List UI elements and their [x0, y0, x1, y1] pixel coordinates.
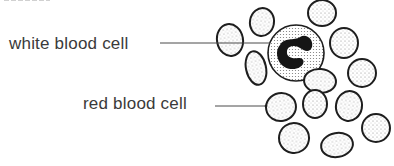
red-blood-cell — [319, 130, 355, 159]
red-blood-cell — [303, 90, 327, 118]
red-blood-cell — [308, 0, 336, 26]
leader-pointer-dot — [265, 105, 268, 108]
cell-illustration — [0, 0, 394, 166]
red-blood-cell — [277, 121, 312, 156]
red-blood-cell — [214, 22, 245, 58]
red-blood-cell — [264, 91, 298, 124]
red-blood-cell — [248, 6, 276, 38]
red-blood-cell — [330, 28, 358, 58]
red-blood-cell — [348, 59, 376, 87]
blood-cell-diagram: white blood cell red blood cell — [0, 0, 394, 166]
red-blood-cell — [243, 49, 270, 86]
red-blood-cell — [362, 114, 390, 142]
red-blood-cell — [334, 89, 365, 123]
